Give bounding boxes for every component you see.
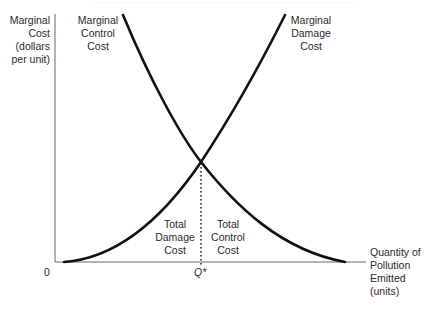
total-control-cost-label: Total Control Cost bbox=[205, 218, 251, 257]
x-axis-label: Quantity of Pollution Emitted (units) bbox=[370, 246, 436, 298]
q-star-label: Q* bbox=[194, 266, 206, 279]
y-axis-label: Marginal Cost (dollars per unit) bbox=[2, 14, 50, 66]
origin-label: 0 bbox=[44, 266, 50, 279]
damage-curve-label: Marginal Damage Cost bbox=[285, 14, 337, 53]
total-damage-cost-label: Total Damage Cost bbox=[152, 218, 198, 257]
control-curve-label: Marginal Control Cost bbox=[74, 14, 122, 53]
